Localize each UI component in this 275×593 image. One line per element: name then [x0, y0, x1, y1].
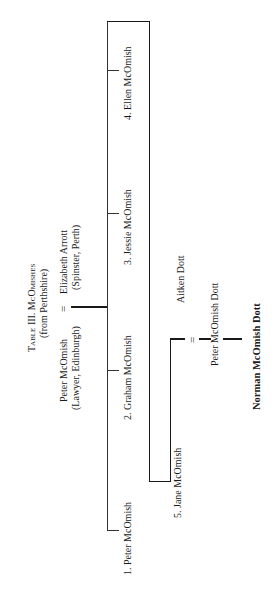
child-peter-mcomish-dott: Peter McOmish Dott	[209, 283, 221, 366]
child-jessie: 3. Jessie McOmish	[122, 189, 134, 265]
father-name: Peter McOmish	[58, 339, 70, 402]
parents-marriage-line	[71, 306, 108, 308]
mother-detail: (Spinster, Perth)	[70, 225, 82, 290]
father-detail: (Lawyer, Edinburgh)	[70, 326, 82, 410]
tick-peter	[107, 530, 119, 531]
child-jane: 5. Jane McOmish	[172, 448, 184, 518]
jane-box-left-stem	[170, 339, 171, 482]
table-subtitle: (from Perthshire)	[38, 269, 50, 338]
sibling-top-connector	[107, 21, 150, 22]
sibling-bar	[107, 21, 108, 530]
child-ellen: 4. Ellen McOmish	[122, 46, 134, 120]
child-graham: 2. Graham McOmish	[122, 335, 134, 420]
tick-graham	[107, 370, 119, 371]
jane-marriage-line-a	[170, 338, 185, 340]
sibling-right-connector	[149, 21, 150, 482]
tick-ellen	[107, 70, 119, 71]
spouse-aitken-dott: Aitken Dott	[175, 256, 187, 304]
mother-name: Elizabeth Arrott	[58, 230, 70, 294]
child-peter: 1. Peter McOmish	[122, 502, 134, 575]
descent-line	[223, 338, 242, 340]
parents-marriage-symbol: =	[58, 306, 69, 312]
jane-marriage-symbol: =	[187, 337, 198, 343]
table-title: Table III. McOmishes	[26, 264, 38, 352]
jane-box-bottom	[149, 481, 171, 482]
grandchild-norman-mcomish-dott: Norman McOmish Dott	[251, 303, 263, 410]
tick-jessie	[107, 213, 119, 214]
